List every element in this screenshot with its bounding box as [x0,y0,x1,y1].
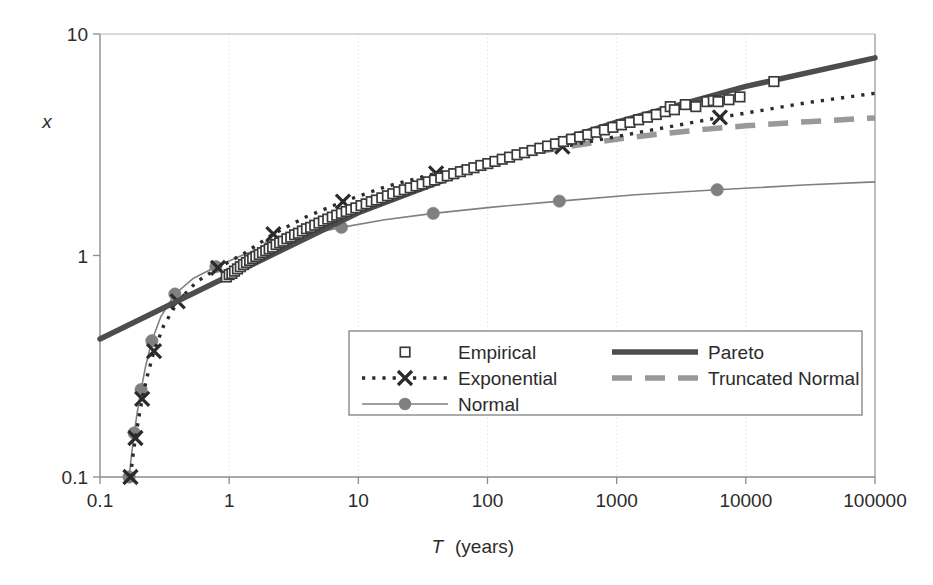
data-point-square [691,102,701,112]
legend-label: Normal [458,394,519,415]
y-axis-tick-label: 1 [77,246,88,267]
x-axis-title-symbol: T [431,536,444,557]
legend-swatch-square [400,347,410,357]
data-point-square [670,105,680,115]
data-point-square [713,97,723,107]
chart-canvas: 0.11101001000100001000000.1110 x T (year… [0,0,933,585]
data-point-square [681,100,691,110]
series-line [129,182,875,477]
legend-label: Pareto [708,342,764,363]
series-empirical [222,77,779,282]
data-point-square [735,92,745,102]
y-axis-title: x [41,111,53,132]
legend-label: Exponential [458,368,557,389]
y-axis-tick-label: 10 [67,24,88,45]
series-exponential [123,93,875,484]
legend[interactable]: EmpiricalExponentialNormalParetoTruncate… [349,331,862,415]
y-axis-tick-label: 0.1 [62,467,88,488]
x-axis-tick-label: 100 [472,490,504,511]
chart-figure: 0.11101001000100001000000.1110 x T (year… [0,0,933,585]
x-axis-tick-label: 10 [348,490,369,511]
data-point-circle [711,184,723,196]
axis-ticks [93,34,875,484]
x-axis-tick-label: 100000 [843,490,906,511]
data-point-square [724,95,734,105]
series-line [130,93,875,477]
data-point-circle [427,207,439,219]
x-axis-tick-label: 10000 [719,490,772,511]
data-point-x [713,110,727,124]
data-point-square [652,110,662,120]
x-axis-title-unit: (years) [455,536,514,557]
legend-label: Empirical [458,342,536,363]
legend-label: Truncated Normal [708,368,859,389]
legend-swatch-circle [399,398,411,410]
axis-tick-labels: 0.11101001000100001000000.1110 [62,24,907,511]
x-axis-tick-label: 0.1 [87,490,113,511]
data-point-square [769,77,779,87]
data-point-circle [553,195,565,207]
x-axis-tick-label: 1000 [596,490,638,511]
x-axis-tick-label: 1 [224,490,235,511]
